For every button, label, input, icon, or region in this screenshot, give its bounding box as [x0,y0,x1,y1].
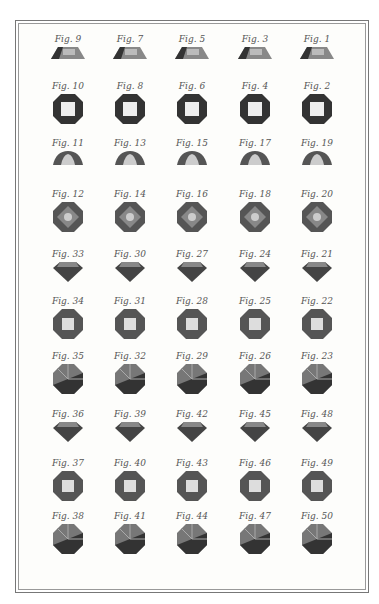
gem-figure: Fig. 5 [162,33,222,59]
gem-figure: Fig. 15 [162,137,222,165]
gem-figure: Fig. 26 [225,350,285,394]
figure-label: Fig. 31 [100,295,160,307]
figure-label: Fig. 45 [225,408,285,420]
gem-illustration-icon [162,524,222,554]
gem-illustration-icon [38,422,98,442]
gem-figure: Fig. 23 [287,350,347,394]
gem-illustration-icon [287,364,347,394]
figure-label: Fig. 33 [38,248,98,260]
figure-label: Fig. 23 [287,350,347,362]
figure-label: Fig. 17 [225,137,285,149]
gem-illustration-icon [38,262,98,282]
figure-label: Fig. 21 [287,248,347,260]
figure-label: Fig. 35 [38,350,98,362]
gem-figure: Fig. 4 [225,80,285,124]
gem-figure: Fig. 17 [225,137,285,165]
figure-label: Fig. 43 [162,457,222,469]
gem-illustration-icon [38,151,98,165]
gem-illustration-icon [162,202,222,232]
gem-illustration-icon [100,364,160,394]
figure-label: Fig. 27 [162,248,222,260]
gem-figure: Fig. 6 [162,80,222,124]
figure-label: Fig. 46 [225,457,285,469]
figure-label: Fig. 7 [100,33,160,45]
gem-illustration-icon [287,47,347,59]
gem-illustration-icon [162,262,222,282]
gem-figure: Fig. 37 [38,457,98,501]
gem-figure: Fig. 33 [38,248,98,282]
figure-label: Fig. 11 [38,137,98,149]
figure-label: Fig. 15 [162,137,222,149]
gem-figure: Fig. 16 [162,188,222,232]
gem-figure: Fig. 14 [100,188,160,232]
gem-figure: Fig. 38 [38,510,98,554]
gem-figure: Fig. 8 [100,80,160,124]
gem-illustration-icon [38,202,98,232]
gem-illustration-icon [225,151,285,165]
gem-figure: Fig. 25 [225,295,285,339]
gem-figure: Fig. 28 [162,295,222,339]
gem-illustration-icon [225,309,285,339]
gem-figure: Fig. 32 [100,350,160,394]
gem-figure: Fig. 9 [38,33,98,59]
gem-illustration-icon [38,524,98,554]
gem-figure: Fig. 29 [162,350,222,394]
gem-figure: Fig. 1 [287,33,347,59]
figure-label: Fig. 2 [287,80,347,92]
figure-label: Fig. 41 [100,510,160,522]
gem-figure: Fig. 22 [287,295,347,339]
gem-illustration-icon [287,94,347,124]
figure-label: Fig. 19 [287,137,347,149]
figure-label: Fig. 16 [162,188,222,200]
gem-illustration-icon [225,262,285,282]
gem-illustration-icon [100,47,160,59]
gem-illustration-icon [162,364,222,394]
gem-figure: Fig. 49 [287,457,347,501]
gem-figure: Fig. 34 [38,295,98,339]
gem-figure: Fig. 42 [162,408,222,442]
figure-label: Fig. 30 [100,248,160,260]
figure-label: Fig. 48 [287,408,347,420]
gem-illustration-icon [225,202,285,232]
gem-illustration-icon [225,364,285,394]
figure-label: Fig. 32 [100,350,160,362]
gem-illustration-icon [225,94,285,124]
gem-figure: Fig. 3 [225,33,285,59]
gem-illustration-icon [162,151,222,165]
figure-label: Fig. 39 [100,408,160,420]
figure-label: Fig. 1 [287,33,347,45]
gem-illustration-icon [287,151,347,165]
gem-figure: Fig. 12 [38,188,98,232]
gem-figure: Fig. 13 [100,137,160,165]
gem-illustration-icon [162,94,222,124]
gem-illustration-icon [38,94,98,124]
gem-illustration-icon [287,471,347,501]
gem-figure: Fig. 50 [287,510,347,554]
gem-illustration-icon [100,422,160,442]
gem-figure: Fig. 30 [100,248,160,282]
gem-illustration-icon [38,364,98,394]
figure-label: Fig. 42 [162,408,222,420]
gem-illustration-icon [162,47,222,59]
gem-illustration-icon [100,151,160,165]
gem-figure: Fig. 27 [162,248,222,282]
figure-label: Fig. 38 [38,510,98,522]
gem-figure: Fig. 20 [287,188,347,232]
figure-label: Fig. 18 [225,188,285,200]
gem-illustration-icon [100,524,160,554]
gem-figure: Fig. 46 [225,457,285,501]
figure-label: Fig. 12 [38,188,98,200]
gem-figure: Fig. 11 [38,137,98,165]
figure-label: Fig. 4 [225,80,285,92]
gem-figure: Fig. 48 [287,408,347,442]
gem-figure: Fig. 2 [287,80,347,124]
figure-label: Fig. 14 [100,188,160,200]
figure-label: Fig. 37 [38,457,98,469]
gem-figure: Fig. 44 [162,510,222,554]
gem-illustration-icon [287,309,347,339]
figure-label: Fig. 25 [225,295,285,307]
gem-figure: Fig. 19 [287,137,347,165]
gem-illustration-icon [225,47,285,59]
figure-label: Fig. 6 [162,80,222,92]
gem-illustration-icon [225,524,285,554]
